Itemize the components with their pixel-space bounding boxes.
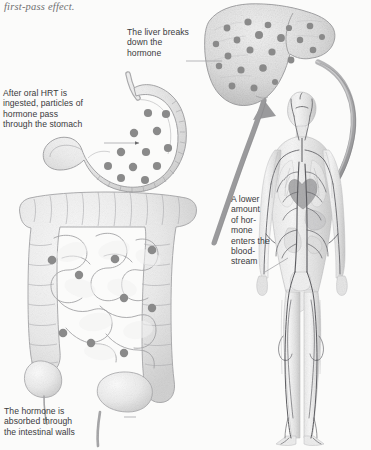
label-liver: The liver breaks down the hormone bbox=[127, 27, 219, 58]
label-bloodstream: A lower amount of hor- mone enters the b… bbox=[231, 194, 283, 267]
section-caption: first-pass effect. bbox=[4, 1, 75, 12]
anatomy-artwork bbox=[0, 0, 371, 450]
illustration-canvas: first-pass effect. After oral HRT is ing… bbox=[0, 0, 371, 450]
label-intestine: The hormone is absorbed through the inte… bbox=[4, 406, 124, 437]
liver-illustration bbox=[205, 4, 335, 106]
label-stomach: After oral HRT is ingested, particles of… bbox=[3, 88, 115, 130]
